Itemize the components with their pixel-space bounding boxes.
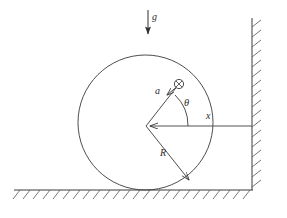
horizontal-distance-label: x [206, 111, 210, 121]
offset-line [146, 84, 179, 126]
gravity-label: g [152, 12, 157, 22]
diagram-canvas [0, 0, 287, 218]
angle-label: θ [184, 98, 189, 109]
radius-label: R [160, 148, 166, 158]
mass-marker-icon [174, 79, 183, 88]
physics-diagram-figure: g a θ x R [0, 0, 287, 218]
disc-circle [78, 55, 213, 190]
radius-arrow [146, 126, 189, 180]
ground-hatching [13, 190, 250, 199]
offset-label: a [155, 86, 160, 96]
wall-hatching [252, 20, 261, 187]
